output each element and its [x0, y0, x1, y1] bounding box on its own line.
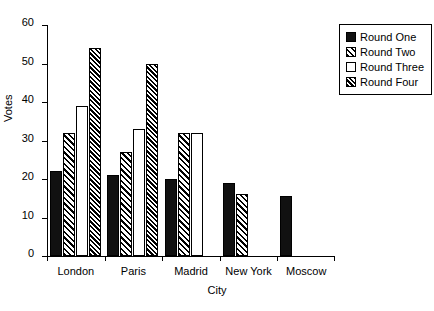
x-tick [220, 256, 221, 261]
bar [236, 194, 248, 256]
legend-swatch [346, 47, 356, 57]
y-tick-label: 10 [22, 210, 34, 221]
x-tick-label: New York [225, 265, 271, 277]
legend-label: Round Four [360, 76, 418, 88]
bar [146, 64, 158, 257]
x-tick-label: Moscow [286, 265, 326, 277]
x-tick-label: London [57, 265, 94, 277]
legend-label: Round One [360, 31, 416, 43]
bar [76, 106, 88, 256]
y-tick-label: 50 [22, 56, 34, 67]
legend-swatch [346, 32, 356, 42]
legend-item: Round Two [346, 45, 424, 59]
y-tick: 30 [42, 141, 47, 142]
y-tick: 60 [42, 25, 47, 26]
y-tick: 10 [42, 218, 47, 219]
bar [107, 175, 119, 256]
x-axis-line [47, 256, 335, 257]
y-tick-label: 60 [22, 17, 34, 28]
x-tick-label: Paris [121, 265, 146, 277]
bar [50, 171, 62, 256]
y-axis-line [47, 25, 48, 256]
plot-area: 0102030405060 LondonParisMadridNew YorkM… [47, 25, 335, 256]
x-axis-title: City [0, 284, 434, 296]
legend-label: Round Two [360, 46, 415, 58]
x-tick [105, 256, 106, 261]
y-axis-title: Votes [2, 94, 14, 122]
x-tick [334, 256, 335, 261]
bar [191, 133, 203, 256]
bar [165, 179, 177, 256]
y-tick-label: 20 [22, 171, 34, 182]
bar [280, 196, 292, 256]
legend-item: Round Three [346, 60, 424, 74]
legend-item: Round One [346, 30, 424, 44]
legend-label: Round Three [360, 61, 424, 73]
bar [89, 48, 101, 256]
bar-chart-figure: 0102030405060 LondonParisMadridNew YorkM… [0, 0, 434, 311]
y-tick: 20 [42, 179, 47, 180]
y-tick: 40 [42, 102, 47, 103]
bar [133, 129, 145, 256]
y-tick-label: 40 [22, 94, 34, 105]
y-tick-label: 30 [22, 133, 34, 144]
legend-swatch [346, 77, 356, 87]
x-tick-label: Madrid [174, 265, 208, 277]
legend-item: Round Four [346, 75, 424, 89]
bar [223, 183, 235, 256]
legend-swatch [346, 62, 356, 72]
legend: Round OneRound TwoRound ThreeRound Four [339, 24, 432, 95]
bar [178, 133, 190, 256]
x-tick [277, 256, 278, 261]
y-tick-label: 0 [28, 248, 34, 259]
y-tick: 50 [42, 64, 47, 65]
bar [120, 152, 132, 256]
x-tick [47, 256, 48, 261]
bar [63, 133, 75, 256]
x-tick [162, 256, 163, 261]
